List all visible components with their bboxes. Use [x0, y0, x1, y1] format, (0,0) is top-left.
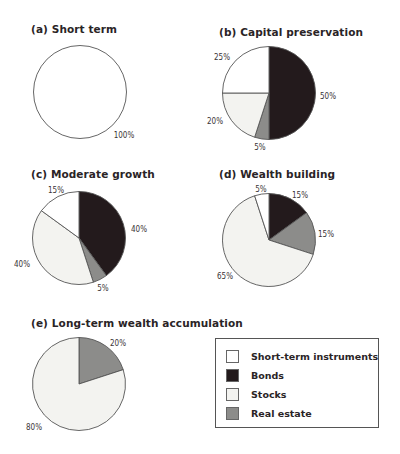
- slice-label-e-real-estate: 20%: [110, 339, 126, 348]
- pie-slice-bonds: [269, 47, 316, 140]
- slice-label-b-real-estate: 5%: [254, 143, 265, 152]
- chart-title-d: (d) Wealth building: [219, 168, 335, 180]
- legend-item-real-estate: Real estate: [226, 406, 312, 420]
- legend-item-bonds: Bonds: [226, 368, 284, 382]
- pie-chart-a: [32, 45, 128, 139]
- pie-slice: [34, 46, 127, 139]
- slice-label-c-short-term: 15%: [48, 186, 64, 195]
- legend-swatch-stocks: [226, 388, 239, 401]
- legend-label-short-term: Short-term instruments: [251, 351, 378, 362]
- chart-title-b: (b) Capital preservation: [219, 26, 363, 38]
- slice-label-d-real-estate: 15%: [318, 230, 334, 239]
- slice-label-c-real-estate: 5%: [97, 284, 108, 293]
- slice-label-c-stocks: 40%: [14, 260, 30, 269]
- slice-label-e-stocks: 80%: [26, 423, 42, 432]
- legend-item-short-term: Short-term instruments: [226, 349, 378, 363]
- chart-title-c: (c) Moderate growth: [31, 168, 155, 180]
- slice-label-a-short-term: 100%: [114, 131, 135, 140]
- pie-chart-d: [221, 193, 317, 287]
- legend-swatch-bonds: [226, 369, 239, 382]
- slice-label-b-short-term: 25%: [214, 53, 230, 62]
- slice-label-c-bonds: 40%: [131, 225, 147, 234]
- legend-label-bonds: Bonds: [251, 370, 284, 381]
- chart-title-e: (e) Long-term wealth accumulation: [31, 317, 243, 329]
- legend-swatch-real-estate: [226, 407, 239, 420]
- chart-title-a: (a) Short term: [31, 23, 117, 35]
- pie-chart-e: [31, 337, 127, 431]
- legend-label-real-estate: Real estate: [251, 408, 312, 419]
- legend-item-stocks: Stocks: [226, 387, 287, 401]
- legend-label-stocks: Stocks: [251, 389, 287, 400]
- pie-chart-b: [221, 46, 317, 140]
- slice-label-b-stocks: 20%: [207, 117, 223, 126]
- slice-label-b-bonds: 50%: [320, 92, 336, 101]
- chart-legend: Short-term instruments Bonds Stocks Real…: [215, 338, 379, 428]
- pie-chart-c: [31, 191, 127, 285]
- slice-label-d-short-term: 5%: [255, 185, 266, 194]
- slice-label-d-bonds: 15%: [292, 191, 308, 200]
- legend-swatch-short-term: [226, 350, 239, 363]
- slice-label-d-stocks: 65%: [217, 272, 233, 281]
